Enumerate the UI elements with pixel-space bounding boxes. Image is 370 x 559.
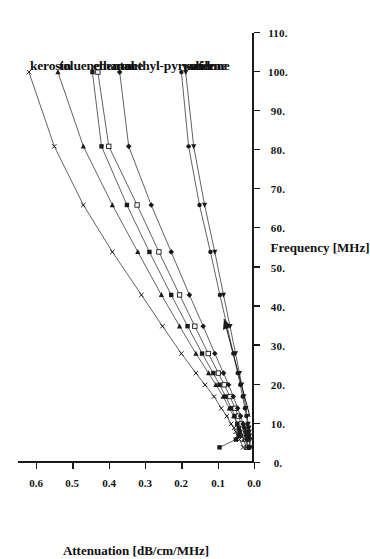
data-point-triangle-left <box>191 144 196 149</box>
y-tick <box>254 463 255 469</box>
x-tick <box>254 110 260 111</box>
data-point-circle-filled <box>197 203 201 207</box>
data-point-diamond-filled <box>126 144 132 150</box>
data-point-diamond-filled <box>168 249 174 255</box>
data-point-square-filled <box>169 293 173 297</box>
data-point-square-filled <box>237 433 241 437</box>
series-label-anilene: anilene <box>187 58 227 74</box>
x-tick <box>254 149 260 150</box>
y-tick <box>109 463 110 469</box>
x-tick-label: 80. <box>271 144 285 156</box>
y-axis-title: Attenuation [dB/cm/MHz] <box>63 543 209 559</box>
data-point-x <box>179 351 183 355</box>
y-tick <box>181 463 182 469</box>
x-tick-label: 30. <box>271 340 285 352</box>
data-point-square-filled <box>217 445 221 449</box>
data-point-square-filled <box>234 437 238 441</box>
x-tick <box>254 71 260 72</box>
data-point-square-open <box>177 293 181 297</box>
y-tick <box>145 463 146 469</box>
y-tick-label: 0.1 <box>204 477 232 489</box>
x-tick-label: 90. <box>271 105 285 117</box>
y-tick <box>36 463 37 469</box>
data-point-square-open <box>193 324 197 328</box>
data-point-diamond-filled <box>148 202 154 208</box>
x-tick-label: 0. <box>274 457 283 469</box>
x-axis-title: Frequency [MHz] <box>270 240 369 256</box>
data-point-diamond-filled <box>187 292 193 298</box>
y-tick-label: 0.2 <box>167 477 195 489</box>
data-point-triangle-right <box>81 144 86 149</box>
x-tick <box>254 227 260 228</box>
data-point-square-filled <box>99 144 103 148</box>
data-point-triangle-right <box>159 292 164 297</box>
data-point-triangle-right <box>110 202 115 207</box>
y-tick-label: 0.5 <box>58 477 86 489</box>
x-tick-label: 20. <box>271 379 285 391</box>
data-point-x <box>139 293 143 297</box>
data-point-x <box>160 324 164 328</box>
data-point-x <box>110 250 114 254</box>
data-point-square-open <box>135 203 139 207</box>
x-tick <box>254 32 260 33</box>
data-point-circle-filled <box>186 144 190 148</box>
data-point-x <box>81 203 85 207</box>
x-tick-label: 110. <box>268 27 287 39</box>
y-tick <box>218 463 219 469</box>
data-point-square-open <box>157 250 161 254</box>
data-point-circle-filled <box>208 250 212 254</box>
data-point-x <box>52 144 56 148</box>
data-point-triangle-left <box>212 250 217 255</box>
x-tick <box>254 266 260 267</box>
x-tick-label: 50. <box>271 262 285 274</box>
x-tick-label: 40. <box>271 301 285 313</box>
y-tick-label: 0.4 <box>95 477 123 489</box>
y-tick-label: 0.0 <box>240 477 268 489</box>
x-tick <box>254 188 260 189</box>
y-tick-label: 0.6 <box>22 477 50 489</box>
data-point-square-filled <box>125 203 129 207</box>
data-point-triangle-left <box>202 203 207 208</box>
origin-arrow-annotation <box>204 303 264 423</box>
y-tick <box>72 463 73 469</box>
data-point-triangle-right <box>193 351 198 356</box>
data-point-triangle-right <box>177 323 182 328</box>
data-point-square-filled <box>147 250 151 254</box>
data-point-triangle-right <box>135 249 140 254</box>
x-tick-label: 60. <box>271 222 285 234</box>
data-point-square-filled <box>185 324 189 328</box>
x-tick-label: 70. <box>271 183 285 195</box>
data-point-x <box>194 371 198 375</box>
x-tick-label: 10. <box>271 418 285 430</box>
y-tick-label: 0.3 <box>131 477 159 489</box>
x-tick-label: 100. <box>268 66 288 78</box>
data-point-square-open <box>107 144 111 148</box>
plot-axes: 0.10.20.30.40.50.60.70.80.90.100.110. 0.… <box>18 33 254 463</box>
